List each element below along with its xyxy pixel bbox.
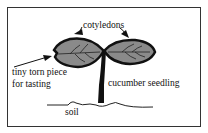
arrowhead-icon [121, 30, 129, 38]
label-seedling: cucumber seedling [108, 78, 180, 89]
label-cotyledons: cotyledons [83, 20, 124, 31]
label-soil: soil [65, 107, 79, 118]
arrowhead-icon [74, 29, 83, 35]
label-torn-piece-line2: for tasting [12, 79, 51, 90]
arrowhead-icon [43, 55, 52, 61]
arrow-torn-piece [14, 58, 44, 67]
label-torn-piece-line1: tiny torn piece [12, 67, 67, 78]
